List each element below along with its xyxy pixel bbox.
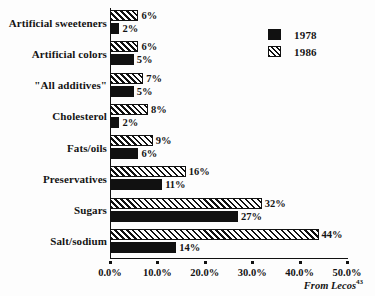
bar-1978	[110, 54, 134, 65]
bar-1978	[110, 117, 119, 128]
bar-value-label: 9%	[156, 135, 172, 146]
bar-row-1978: 11%	[110, 179, 186, 190]
bar-group: 6%2%	[110, 8, 347, 39]
bar-value-label: 5%	[137, 54, 153, 65]
bar-group: 6%5%	[110, 39, 347, 70]
bar-1986	[110, 166, 186, 177]
x-axis-tick-mark	[204, 261, 207, 264]
bar-group: 16%11%	[110, 164, 347, 195]
bar-value-label: 44%	[322, 229, 343, 240]
bar-group: 9%6%	[110, 133, 347, 164]
plot-area: 6%2%6%5%7%5%8%2%9%6%16%11%32%27%44%14% 0…	[110, 8, 347, 258]
bar-row-1986: 9%	[110, 135, 171, 146]
y-axis-category-label: Artificial colors	[0, 48, 107, 60]
bar-row-1978: 2%	[110, 117, 138, 128]
x-axis-line	[110, 258, 348, 259]
bar-group: 44%14%	[110, 227, 347, 258]
bar-1978	[110, 179, 162, 190]
bar-row-1978: 27%	[110, 211, 262, 222]
bar-1986	[110, 73, 143, 84]
y-axis-category-label: Cholesterol	[0, 110, 107, 122]
bar-row-1986: 32%	[110, 198, 286, 209]
bar-group: 32%27%	[110, 196, 347, 227]
bar-1986	[110, 198, 262, 209]
bar-value-label: 16%	[189, 166, 210, 177]
bar-1986	[110, 10, 138, 21]
y-axis-category-label: "All additives"	[0, 79, 107, 91]
x-axis-tick-mark	[346, 261, 349, 264]
bar-value-label: 2%	[122, 117, 138, 128]
y-axis-category-label: Salt/sodium	[0, 235, 107, 247]
bar-1978	[110, 86, 134, 97]
bar-row-1978: 5%	[110, 86, 152, 97]
y-axis-category-label: Artificial sweeteners	[0, 17, 107, 29]
x-axis-tick-mark	[156, 261, 159, 264]
bar-value-label: 6%	[141, 10, 157, 21]
y-axis-category-label: Fats/oils	[0, 142, 107, 154]
bar-value-label: 32%	[265, 198, 286, 209]
y-axis-category-label: Preservatives	[0, 173, 107, 185]
bar-row-1986: 44%	[110, 229, 343, 240]
bar-value-label: 14%	[179, 242, 200, 253]
bar-1978	[110, 148, 138, 159]
bar-1978	[110, 23, 119, 34]
bar-row-1978: 6%	[110, 148, 157, 159]
x-axis-tick-mark	[251, 261, 254, 264]
bar-row-1978: 5%	[110, 54, 152, 65]
x-axis-tick-mark	[299, 261, 302, 264]
bar-group: 7%5%	[110, 71, 347, 102]
bar-value-label: 8%	[151, 104, 167, 115]
bar-row-1978: 2%	[110, 23, 138, 34]
y-axis-category-label: Sugars	[0, 204, 107, 216]
bar-row-1978: 14%	[110, 242, 200, 253]
bar-1978	[110, 242, 176, 253]
source-citation: From Lecos43	[304, 278, 363, 291]
bar-1986	[110, 41, 138, 52]
bar-chart: 1978 1986 6%2%6%5%7%5%8%2%9%6%16%11%32%2…	[0, 0, 375, 296]
bar-row-1986: 8%	[110, 104, 167, 115]
bar-1986	[110, 104, 148, 115]
bar-value-label: 2%	[122, 23, 138, 34]
bar-1986	[110, 229, 319, 240]
source-text: From Lecos	[304, 280, 356, 291]
x-axis-tick-label: 50.0%	[317, 267, 375, 278]
bar-value-label: 11%	[165, 179, 185, 190]
bar-row-1986: 6%	[110, 41, 157, 52]
bar-value-label: 5%	[137, 86, 153, 97]
bar-group: 8%2%	[110, 102, 347, 133]
bar-1978	[110, 211, 238, 222]
bar-value-label: 6%	[141, 41, 157, 52]
bar-value-label: 27%	[241, 211, 262, 222]
source-reference: 43	[356, 278, 363, 286]
bar-1986	[110, 135, 153, 146]
bar-row-1986: 6%	[110, 10, 157, 21]
bar-value-label: 6%	[141, 148, 157, 159]
bar-value-label: 7%	[146, 73, 162, 84]
x-axis-tick-mark	[109, 261, 112, 264]
bar-row-1986: 7%	[110, 73, 162, 84]
bar-row-1986: 16%	[110, 166, 210, 177]
